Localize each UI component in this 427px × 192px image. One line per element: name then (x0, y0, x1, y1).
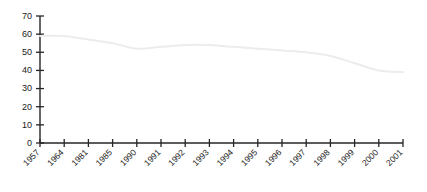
y-tick-label: 70 (22, 11, 32, 21)
x-tick-label: 1957 (21, 147, 42, 168)
x-axis: 1957196419811985199019911992199319941995… (21, 139, 405, 168)
line-chart: 010203040506070 195719641981198519901991… (0, 0, 427, 192)
x-tick-label: 1991 (142, 147, 163, 168)
data-series-line (40, 36, 403, 73)
y-tick-label: 10 (22, 120, 32, 130)
x-tick-label: 1999 (336, 147, 357, 168)
y-tick-label: 0 (27, 138, 32, 148)
y-tick-label: 50 (22, 47, 32, 57)
y-axis: 010203040506070 (22, 11, 44, 148)
x-tick-label: 1993 (190, 147, 211, 168)
y-tick-label: 30 (22, 83, 32, 93)
x-tick-label: 1981 (69, 147, 90, 168)
y-tick-label: 60 (22, 29, 32, 39)
x-tick-label: 2000 (360, 147, 381, 168)
plot-area (40, 36, 403, 73)
x-tick-label: 1998 (311, 147, 332, 168)
x-tick-label: 1997 (287, 147, 308, 168)
x-tick-label: 1995 (239, 147, 260, 168)
x-tick-label: 1994 (215, 147, 236, 168)
x-tick-label: 1985 (94, 147, 115, 168)
y-tick-label: 40 (22, 65, 32, 75)
y-tick-label: 20 (22, 102, 32, 112)
x-tick-label: 1992 (166, 147, 187, 168)
x-tick-label: 1996 (263, 147, 284, 168)
x-tick-label: 2001 (384, 147, 405, 168)
x-tick-label: 1990 (118, 147, 139, 168)
chart-canvas: 010203040506070 195719641981198519901991… (0, 0, 427, 192)
x-tick-label: 1964 (45, 147, 66, 168)
